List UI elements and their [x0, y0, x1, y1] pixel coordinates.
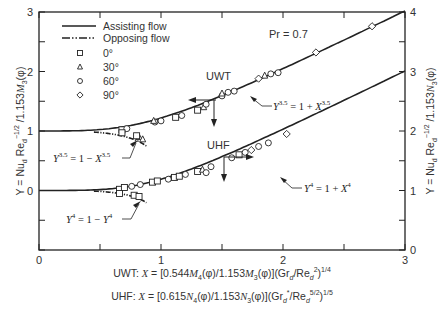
eq-uwt-oppose: Y3.5 = 1 − X3.5	[53, 140, 138, 164]
marker-circle	[265, 140, 271, 146]
marker-circle	[208, 164, 214, 170]
marker-square	[121, 185, 127, 191]
eq-uhf-assist: Y4 = 1 + X4	[280, 177, 351, 194]
data-points	[117, 23, 376, 200]
y-left-tick-label: 0	[27, 185, 33, 197]
marker-square	[134, 133, 140, 139]
legend-0-label: 0°	[103, 47, 113, 59]
marker-diamond	[248, 146, 255, 153]
marker-circle	[203, 101, 209, 107]
marker-diamond	[77, 92, 83, 98]
x-tick-label: 2	[280, 254, 286, 266]
marker-circle	[137, 182, 143, 188]
y-right-tick-label: 2	[410, 125, 416, 137]
marker-square	[195, 107, 201, 113]
uwt-label: UWT	[206, 70, 231, 82]
marker-circle	[165, 176, 171, 182]
eq-uhf-oppose: Y4 = 1 − Y4	[66, 201, 141, 225]
marker-square	[119, 130, 125, 136]
curves	[39, 11, 405, 203]
x-tick-label: 0	[36, 254, 42, 266]
marker-circle	[275, 70, 281, 76]
marker-circle	[231, 88, 237, 94]
y-axis-left-title: Y = Nud Red−1/2 /1.153M3(φ)	[13, 67, 28, 196]
x-tick-label: 3	[402, 254, 408, 266]
legend-opposing-label: Opposing flow	[103, 32, 170, 44]
x-axis-caption-uhf: UHF: X = [0.615N4(φ)/1.153N3(φ)](Grd*/Re…	[0, 289, 444, 304]
svg-text:Y4 = 1 + X4: Y4 = 1 + X4	[304, 181, 351, 194]
svg-text:Y3.5 = 1 − X3.5: Y3.5 = 1 − X3.5	[53, 151, 111, 164]
legend-30-label: 30°	[103, 61, 119, 73]
pr-annotation: Pr = 0.7	[269, 28, 308, 40]
marker-square	[136, 193, 142, 199]
marker-square	[78, 51, 83, 56]
marker-diamond	[283, 130, 290, 137]
x-tick-label: 1	[158, 254, 164, 266]
y-left-tick-label: 2	[27, 66, 33, 78]
y-left-tick-label: 1	[27, 125, 33, 137]
marker-diamond	[368, 23, 375, 30]
marker-circle	[229, 155, 235, 161]
marker-circle	[78, 79, 83, 84]
legend-90-label: 90°	[103, 89, 119, 101]
y-axis-right-title: Y = Nud Red−1/2 /1.153N3(φ)	[423, 67, 438, 194]
x-axis-caption-uwt: UWT: X = [0.544M4(φ)/1.153M3(φ)](Grd/Red…	[0, 266, 444, 281]
y-right-tick-label: 3	[410, 66, 416, 78]
y-right-tick-label: 1	[410, 185, 416, 197]
y-right-tick-label: 4	[410, 6, 416, 18]
uhf-label: UHF	[207, 139, 230, 151]
legend-60-label: 60°	[103, 75, 119, 87]
marker-circle	[256, 143, 262, 149]
marker-square	[176, 173, 182, 179]
uwt-axis-arrows	[188, 97, 217, 127]
marker-circle	[203, 170, 209, 176]
marker-square	[173, 114, 179, 120]
caption-uhf-prefix: UHF:	[111, 290, 136, 302]
marker-circle	[158, 118, 164, 124]
marker-square	[154, 178, 160, 184]
marker-circle	[182, 171, 188, 177]
legend-assisting-label: Assisting flow	[103, 20, 167, 32]
y-left-tick-label: 3	[27, 6, 33, 18]
marker-circle	[129, 183, 135, 189]
marker-triangle	[219, 90, 225, 96]
marker-circle	[268, 71, 274, 77]
marker-triangle	[78, 64, 83, 69]
axis-ticks: 0123012301234	[27, 6, 416, 266]
y-right-tick-label: 0	[410, 244, 416, 256]
legend: Assisting flow Opposing flow 0° 30° 60° …	[62, 20, 170, 101]
eq-uwt-assist: Y3.5 = 1 + X3.5	[250, 96, 331, 112]
caption-uwt-prefix: UWT:	[113, 267, 139, 279]
marker-circle	[225, 89, 231, 95]
marker-circle	[179, 113, 185, 119]
legend-markers	[77, 51, 83, 99]
marker-square	[117, 190, 123, 196]
svg-text:Y4 = 1 − Y4: Y4 = 1 − Y4	[66, 212, 113, 225]
